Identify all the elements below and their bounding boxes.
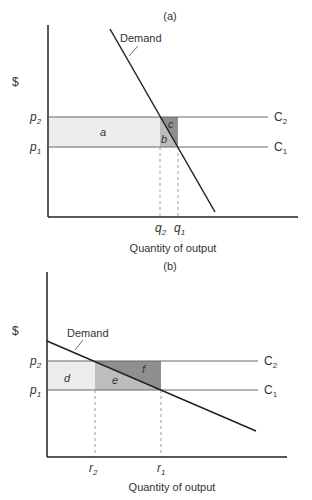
panel-b: (b) Demand $ p2 p1 C2 C1 d e f r2 r1 Qua… bbox=[12, 260, 287, 493]
r1-label: r1 bbox=[157, 461, 165, 477]
panel-b-title: (b) bbox=[163, 260, 176, 272]
x-axis-label-a: Quantity of output bbox=[130, 242, 217, 254]
region-e-label: e bbox=[112, 374, 118, 386]
demand-label-b: Demand bbox=[67, 327, 109, 339]
c1-label-a: C1 bbox=[274, 140, 288, 156]
q1-label: q1 bbox=[174, 221, 185, 237]
y-axis-label-a: $ bbox=[12, 75, 19, 89]
p1-label-b: p1 bbox=[29, 383, 41, 399]
c1-label-b: C1 bbox=[264, 383, 278, 399]
r2-label: r2 bbox=[89, 461, 98, 477]
q2-label: q2 bbox=[155, 221, 167, 237]
region-c-label: c bbox=[168, 118, 174, 130]
panel-a-title: (a) bbox=[163, 10, 176, 22]
p2-label-a: p2 bbox=[29, 110, 42, 126]
p1-label-a: p1 bbox=[29, 140, 41, 156]
demand-pointer-a bbox=[129, 46, 138, 56]
region-a-label: a bbox=[100, 126, 106, 138]
diagram-canvas: (a) Demand $ p2 p1 C2 C1 a b c q2 q1 bbox=[0, 0, 312, 500]
demand-pointer-b bbox=[75, 340, 83, 350]
demand-label-a: Demand bbox=[120, 32, 162, 44]
c2-label-a: C2 bbox=[274, 110, 288, 126]
region-d bbox=[48, 361, 95, 390]
x-axis-label-b: Quantity of output bbox=[129, 481, 216, 493]
region-d-label: d bbox=[64, 372, 71, 384]
c2-label-b: C2 bbox=[264, 354, 278, 370]
p2-label-b: p2 bbox=[29, 354, 42, 370]
y-axis-label-b: $ bbox=[12, 324, 19, 338]
region-b-label: b bbox=[161, 133, 167, 145]
panel-a: (a) Demand $ p2 p1 C2 C1 a b c q2 q1 bbox=[12, 10, 298, 254]
